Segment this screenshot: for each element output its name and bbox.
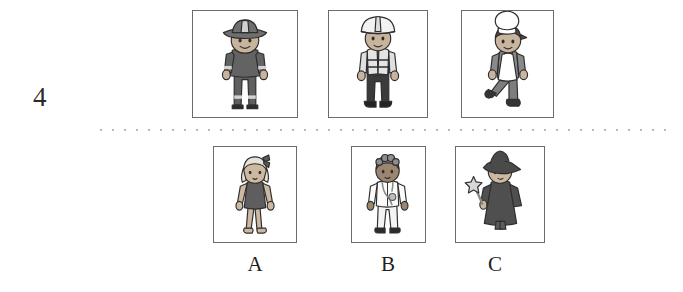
dotted-divider: [95, 129, 673, 131]
chef-icon: [462, 11, 553, 117]
construction-worker-icon: [329, 11, 427, 117]
wizard-figure-icon: [456, 147, 544, 242]
picture-frame-chef[interactable]: [461, 10, 554, 118]
answer-frame-a[interactable]: [213, 146, 297, 243]
option-label-b: B: [358, 254, 418, 275]
picture-frame-firefighter[interactable]: [192, 10, 298, 118]
option-label-a: A: [225, 254, 285, 275]
firefighter-icon: [193, 11, 297, 117]
picture-frame-construction-worker[interactable]: [328, 10, 428, 118]
doctor-figure-icon: [352, 147, 425, 242]
worksheet-page: 4: [0, 0, 683, 292]
option-label-c: C: [465, 254, 525, 275]
answer-frame-c[interactable]: [455, 146, 545, 243]
question-number: 4: [33, 84, 47, 111]
answer-frame-b[interactable]: [351, 146, 426, 243]
girl-figure-icon: [214, 147, 296, 242]
